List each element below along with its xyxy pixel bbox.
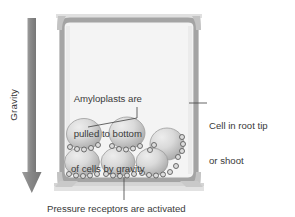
cell-label-line-2: or shoot — [209, 155, 268, 167]
amyloplast-callout-line-2: pulled to bottom — [71, 128, 145, 140]
gravitropism-diagram: Gravity Amyloplasts are pulled to bottom… — [0, 0, 295, 217]
amyloplast-callout-line-3: of cells by gravity — [71, 163, 145, 175]
pressure-receptor — [181, 142, 186, 147]
amyloplast-callout-line-1: Amyloplasts are — [71, 93, 145, 105]
pressure-receptor — [147, 173, 152, 178]
pressure-receptor — [154, 173, 159, 178]
pressure-receptor — [148, 148, 153, 153]
pressure-receptor — [174, 164, 179, 169]
pressure-receptor — [152, 143, 157, 148]
pressure-receptor — [180, 149, 185, 154]
pressure-receptor — [161, 172, 166, 177]
pressure-receptor — [168, 170, 173, 175]
amyloplast-callout: Amyloplasts are pulled to bottom of cell… — [71, 70, 145, 198]
pressure-receptor — [176, 155, 181, 160]
cell-label-line-1: Cell in root tip — [209, 120, 268, 132]
gravity-arrow-label: Gravity — [8, 77, 20, 133]
pressure-receptor-caption: Pressure receptors are activated — [47, 203, 186, 215]
gravity-arrow-icon — [22, 18, 42, 193]
pressure-receptor — [180, 135, 185, 140]
cell-structure-label: Cell in root tip or shoot — [209, 97, 268, 190]
